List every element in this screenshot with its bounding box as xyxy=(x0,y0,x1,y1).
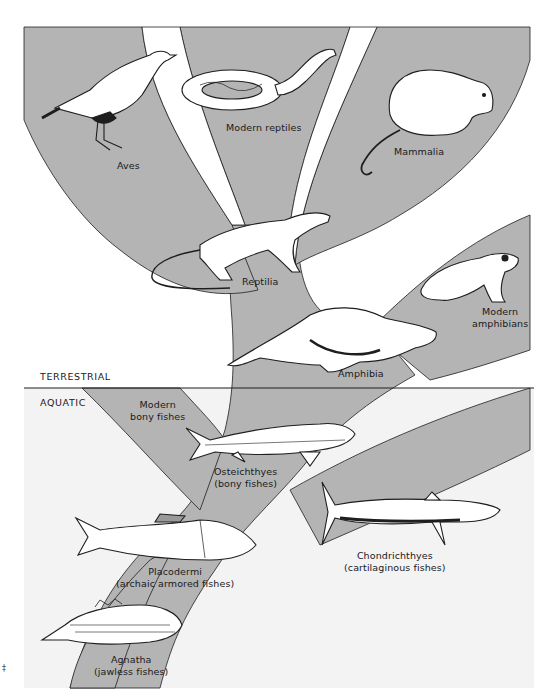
label-agnatha: Agnatha (jawless fishes) xyxy=(94,654,168,678)
label-agnatha-line1: Agnatha xyxy=(94,654,168,666)
label-modern-bony-fishes-line1: Modern xyxy=(130,399,185,411)
label-reptilia: Reptilia xyxy=(242,276,278,288)
label-modern-bony-fishes: Modern bony fishes xyxy=(130,399,185,423)
label-osteichthyes: Osteichthyes (bony fishes) xyxy=(214,466,277,490)
label-chondrichthyes-line2: (cartilaginous fishes) xyxy=(344,562,446,574)
label-modern-reptiles: Modern reptiles xyxy=(226,122,302,134)
label-modern-amphibians: Modern amphibians xyxy=(472,306,528,330)
zone-label-aquatic: AQUATIC xyxy=(40,397,86,408)
label-amphibia: Amphibia xyxy=(338,368,384,380)
label-chondrichthyes-line1: Chondrichthyes xyxy=(344,550,446,562)
stray-mark: ‡ xyxy=(2,664,6,673)
label-placodermi-line2: (archaic armored fishes) xyxy=(116,578,234,590)
label-modern-bony-fishes-line2: bony fishes xyxy=(130,411,185,423)
label-modern-amphibians-line1: Modern xyxy=(472,306,528,318)
label-placodermi-line1: Placodermi xyxy=(116,566,234,578)
label-agnatha-line2: (jawless fishes) xyxy=(94,666,168,678)
label-mammalia: Mammalia xyxy=(394,146,444,158)
label-modern-amphibians-line2: amphibians xyxy=(472,318,528,330)
label-chondrichthyes: Chondrichthyes (cartilaginous fishes) xyxy=(344,550,446,574)
label-aves: Aves xyxy=(117,160,140,172)
tree-diagram xyxy=(0,0,555,697)
label-osteichthyes-line2: (bony fishes) xyxy=(214,478,277,490)
zone-label-terrestrial: TERRESTRIAL xyxy=(40,371,111,382)
label-osteichthyes-line1: Osteichthyes xyxy=(214,466,277,478)
label-placodermi: Placodermi (archaic armored fishes) xyxy=(116,566,234,590)
